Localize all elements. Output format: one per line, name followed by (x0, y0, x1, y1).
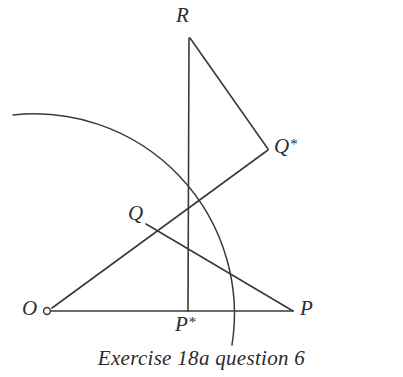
label-R: R (176, 5, 189, 26)
geometry-figure: R Q* Q O P* P Exercise 18a question 6 (0, 0, 403, 377)
label-P-star-letter: P (175, 312, 188, 336)
label-Q: Q (128, 203, 143, 224)
label-P-star-asterisk: * (188, 314, 196, 330)
label-P: P (300, 298, 313, 319)
segment-R-to-Q-star (190, 38, 268, 149)
label-Q-star-letter: Q (274, 134, 289, 158)
label-P-star: P* (175, 314, 196, 335)
label-Q-star: Q* (274, 136, 297, 157)
label-Q-star-asterisk: * (289, 136, 297, 152)
segment-O-to-Q-star (52, 150, 268, 308)
figure-caption: Exercise 18a question 6 (0, 346, 403, 371)
segment-R-to-P-star (188, 38, 189, 311)
point-marker-O (44, 308, 51, 315)
label-O: O (22, 298, 37, 319)
geometry-canvas (0, 0, 403, 377)
